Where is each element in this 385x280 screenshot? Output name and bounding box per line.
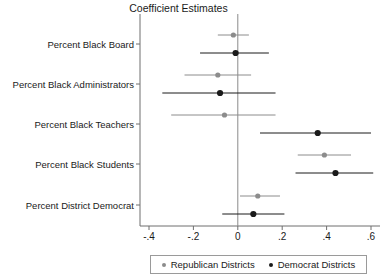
coefficient-plot: Coefficient Estimates Percent Black Boar…: [0, 0, 385, 280]
data-point-0-0: [231, 32, 236, 37]
legend-marker-icon-0: [162, 263, 166, 267]
y-axis-label-2: Percent Black Teachers: [34, 119, 134, 130]
legend-entry-0[interactable]: Republican Districts: [162, 259, 255, 270]
x-axis-tick-label-4: .4: [322, 231, 330, 242]
y-axis-label-0: Percent Black Board: [47, 39, 134, 50]
x-axis-tick-label-3: .2: [278, 231, 286, 242]
x-axis-tick-label-2: 0: [235, 231, 241, 242]
data-point-0-2: [222, 112, 227, 117]
y-axis-labels: Percent Black BoardPercent Black Adminis…: [0, 0, 134, 280]
data-point-1-3: [332, 170, 338, 176]
y-axis-label-4: Percent District Democrat: [26, 200, 134, 211]
y-axis-label-1: Percent Black Administrators: [13, 79, 134, 90]
x-axis-tick-label-0: -.4: [143, 231, 155, 242]
chart-legend: Republican DistrictsDemocrat Districts: [150, 255, 367, 274]
y-axis-label-3: Percent Black Students: [35, 159, 134, 170]
legend-marker-icon-1: [269, 263, 273, 267]
legend-label-1: Democrat Districts: [278, 259, 356, 270]
legend-label-0: Republican Districts: [171, 259, 255, 270]
data-point-0-3: [322, 152, 327, 157]
data-point-0-1: [215, 72, 220, 77]
data-point-1-2: [315, 130, 321, 136]
x-axis-tick-label-5: .6: [367, 231, 375, 242]
data-point-0-4: [255, 193, 260, 198]
data-point-1-1: [217, 90, 223, 96]
data-point-1-0: [232, 50, 238, 56]
x-axis-tick-label-1: -.2: [188, 231, 200, 242]
data-point-1-4: [250, 211, 256, 217]
legend-entry-1[interactable]: Democrat Districts: [269, 259, 356, 270]
